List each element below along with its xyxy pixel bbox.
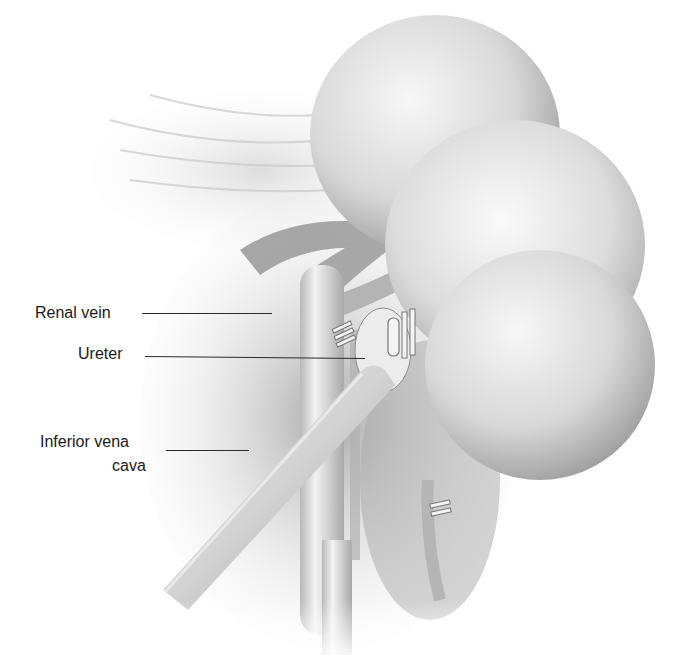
anatomy-illustration	[0, 0, 681, 663]
label-ureter: Ureter	[78, 344, 122, 364]
leader-renal-vein	[142, 313, 272, 314]
label-inferior-vena-cava-line2: cava	[112, 456, 146, 476]
label-renal-vein: Renal vein	[35, 303, 111, 323]
leader-inferior-vena-cava	[166, 450, 249, 451]
illustration-canvas: Renal vein Ureter Inferior vena cava	[0, 0, 681, 663]
label-inferior-vena-cava-line1: Inferior vena	[40, 432, 129, 452]
